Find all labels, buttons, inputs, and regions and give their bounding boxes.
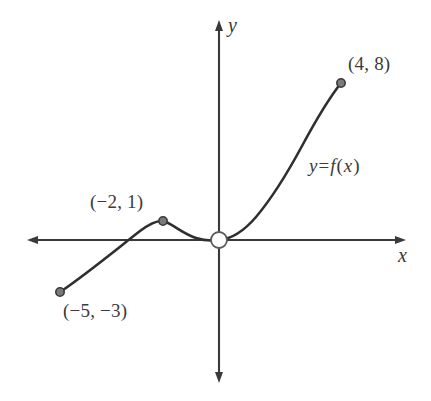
- function-label-close-paren: ): [352, 155, 360, 176]
- function-label-x: x: [344, 155, 352, 176]
- x-axis-label: x: [398, 244, 407, 267]
- point-marker-right-endpoint: [337, 79, 345, 87]
- point-marker-origin-hole: [211, 232, 227, 248]
- graph-figure: (−2, 1) (−5, −3) (4, 8) y=f(x) x y: [0, 0, 431, 401]
- function-label-open-paren: (: [335, 155, 343, 176]
- point-label-local-maximum: (−2, 1): [90, 191, 143, 213]
- function-label: y=f(x): [309, 155, 361, 177]
- point-marker-local-maximum: [159, 217, 167, 225]
- point-label-left-endpoint: (−5, −3): [63, 300, 127, 322]
- function-curve: [60, 83, 341, 292]
- function-label-equals: =: [317, 155, 330, 176]
- point-marker-left-endpoint: [56, 288, 64, 296]
- y-axis-label: y: [228, 14, 237, 37]
- point-label-right-endpoint: (4, 8): [348, 53, 390, 75]
